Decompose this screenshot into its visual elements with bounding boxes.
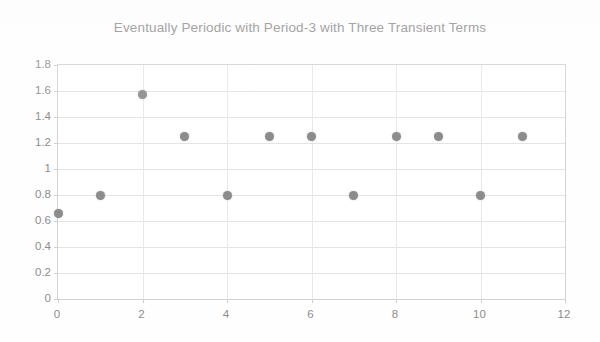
data-point <box>392 132 401 141</box>
y-tick-mark <box>54 273 58 274</box>
x-tick-label: 6 <box>291 308 331 320</box>
x-tick-label: 12 <box>544 308 584 320</box>
y-tick-label: 0.4 <box>5 240 51 252</box>
x-tick-mark <box>396 299 397 303</box>
y-tick-mark <box>54 195 58 196</box>
y-tick-label: 0.8 <box>5 188 51 200</box>
y-tick-mark <box>54 169 58 170</box>
x-tick-mark <box>565 299 566 303</box>
chart-figure: Eventually Periodic with Period-3 with T… <box>0 0 600 342</box>
y-tick-label: 1.8 <box>5 58 51 70</box>
y-tick-mark <box>54 65 58 66</box>
plot-area <box>57 64 566 300</box>
x-tick-mark <box>143 299 144 303</box>
x-tick-mark <box>481 299 482 303</box>
data-point <box>96 191 105 200</box>
y-tick-label: 1.2 <box>5 136 51 148</box>
x-tick-label: 4 <box>206 308 246 320</box>
y-axis-labels: 00.20.40.60.811.21.41.61.8 <box>0 64 51 300</box>
data-point <box>138 90 147 99</box>
y-tick-mark <box>54 91 58 92</box>
x-tick-label: 2 <box>122 308 162 320</box>
gridline-vertical <box>227 65 228 299</box>
y-tick-mark <box>54 247 58 248</box>
y-tick-label: 0.2 <box>5 266 51 278</box>
y-tick-label: 1.4 <box>5 110 51 122</box>
data-point <box>223 191 232 200</box>
y-tick-label: 0.6 <box>5 214 51 226</box>
chart-title: Eventually Periodic with Period-3 with T… <box>0 20 600 35</box>
data-point <box>434 132 443 141</box>
y-tick-mark <box>54 221 58 222</box>
gridline-vertical <box>481 65 482 299</box>
x-tick-label: 8 <box>375 308 415 320</box>
data-point <box>54 209 63 218</box>
data-point <box>476 191 485 200</box>
y-tick-label: 1.6 <box>5 84 51 96</box>
x-tick-mark <box>58 299 59 303</box>
y-tick-mark <box>54 143 58 144</box>
gridline-vertical <box>143 65 144 299</box>
data-point <box>518 132 527 141</box>
x-tick-mark <box>227 299 228 303</box>
data-point <box>180 132 189 141</box>
data-point <box>349 191 358 200</box>
data-point <box>307 132 316 141</box>
x-axis-labels: 024681012 <box>57 308 566 328</box>
y-tick-mark <box>54 117 58 118</box>
x-tick-label: 10 <box>460 308 500 320</box>
y-tick-label: 1 <box>5 162 51 174</box>
gridline-vertical <box>396 65 397 299</box>
gridline-vertical <box>312 65 313 299</box>
x-tick-label: 0 <box>37 308 77 320</box>
x-tick-mark <box>312 299 313 303</box>
y-tick-label: 0 <box>5 292 51 304</box>
data-point <box>265 132 274 141</box>
